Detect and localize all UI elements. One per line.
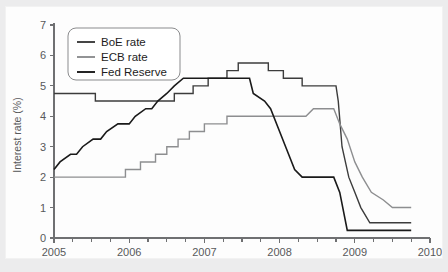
chart-legend: BoE rateECB rateFed Reserve [68,28,180,80]
y-axis-tick-label: 6 [40,49,46,61]
y-axis-tick-label: 5 [40,80,46,92]
series-line-ecb-rate [54,109,411,208]
y-axis-tick-label: 1 [40,202,46,214]
chart-panel: 01234567200520062007200820092010 BoE rat… [6,7,442,258]
series-line-boe-rate [54,63,411,223]
x-axis-tick-label: 2005 [42,246,66,258]
x-axis-tick-label: 2007 [192,246,216,258]
chart-screenshot: 01234567200520062007200820092010 BoE rat… [0,0,448,272]
legend-label-boe-rate: BoE rate [101,36,146,48]
y-axis-title: Interest rate (%) [11,97,23,172]
chart-series-group [54,63,411,230]
legend-label-fed-reserve: Fed Reserve [101,66,167,78]
y-axis-tick-label: 7 [40,19,46,31]
x-axis-tick-label: 2006 [117,246,141,258]
y-axis-tick-label: 0 [40,232,46,244]
y-axis-tick-label: 2 [40,171,46,183]
x-axis-tick-label: 2008 [267,246,291,258]
x-axis-tick-label: 2010 [418,246,442,258]
interest-rate-line-chart: 01234567200520062007200820092010 BoE rat… [6,7,442,258]
y-axis-tick-label: 4 [40,110,46,122]
y-axis-tick-label: 3 [40,141,46,153]
x-axis-tick-label: 2009 [343,246,367,258]
legend-label-ecb-rate: ECB rate [101,51,148,63]
